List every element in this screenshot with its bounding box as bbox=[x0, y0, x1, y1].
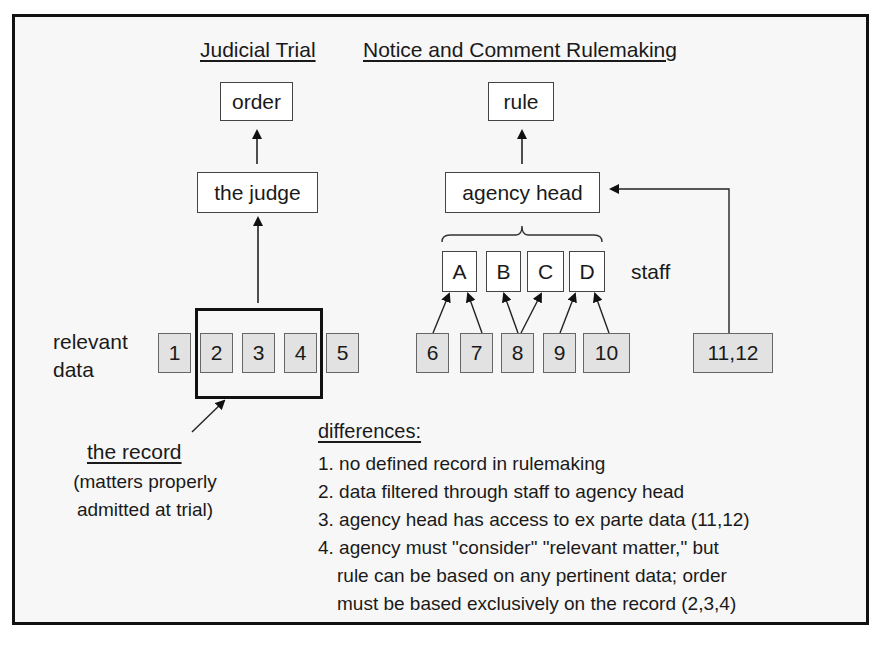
record-label: the record bbox=[87, 440, 182, 464]
heading-judicial-trial: Judicial Trial bbox=[200, 38, 316, 62]
difference-item: 2. data filtered through staff to agency… bbox=[318, 478, 750, 506]
staff-box-b: B bbox=[486, 251, 521, 292]
record-note: (matters properly admitted at trial) bbox=[50, 468, 240, 524]
order-box: order bbox=[220, 82, 293, 121]
differences-title: differences: bbox=[318, 420, 421, 443]
staff-box-a: A bbox=[442, 251, 477, 292]
data-item-1: 1 bbox=[158, 333, 191, 373]
data-item-6: 6 bbox=[416, 333, 449, 373]
data-item-9: 9 bbox=[543, 333, 576, 373]
difference-item: 4. agency must "consider" "relevant matt… bbox=[318, 534, 750, 562]
difference-item-continued: must be based exclusively on the record … bbox=[318, 590, 750, 618]
agency-head-box: agency head bbox=[445, 172, 600, 213]
record-boundary bbox=[195, 308, 323, 399]
relevant-data-label: relevant data bbox=[53, 328, 128, 384]
judge-box: the judge bbox=[197, 172, 318, 213]
staff-box-d: D bbox=[569, 251, 605, 292]
difference-item: 1. no defined record in rulemaking bbox=[318, 450, 750, 478]
rule-box: rule bbox=[488, 82, 554, 121]
data-item-7: 7 bbox=[460, 333, 493, 373]
data-item-8: 8 bbox=[501, 333, 534, 373]
heading-rulemaking: Notice and Comment Rulemaking bbox=[363, 38, 677, 62]
ex-parte-data-box: 11,12 bbox=[693, 333, 773, 373]
data-item-5: 5 bbox=[326, 333, 359, 373]
staff-box-c: C bbox=[527, 251, 564, 292]
difference-item: 3. agency head has access to ex parte da… bbox=[318, 506, 750, 534]
difference-item-continued: rule can be based on any pertinent data;… bbox=[318, 562, 750, 590]
staff-label: staff bbox=[631, 258, 670, 286]
data-item-10: 10 bbox=[583, 333, 630, 373]
differences-list: 1. no defined record in rulemaking 2. da… bbox=[318, 450, 750, 618]
